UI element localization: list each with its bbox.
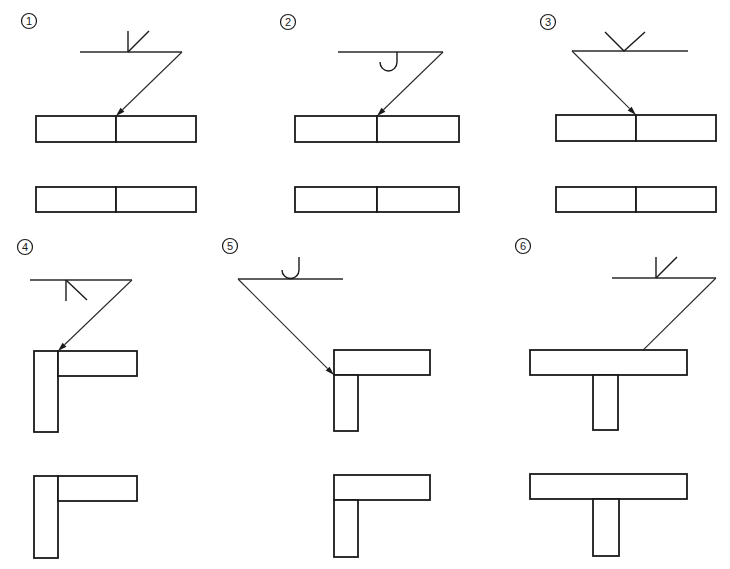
plate <box>58 476 137 501</box>
plate <box>36 116 116 142</box>
diagram-number-label: 2 <box>281 15 296 30</box>
diagram-number-label: 5 <box>223 239 238 254</box>
label-number: 2 <box>285 16 291 28</box>
symbol-stroke <box>605 32 645 51</box>
plate <box>116 116 196 142</box>
diagram-3: 3 <box>541 15 717 213</box>
joint-result <box>36 187 196 212</box>
plate <box>593 375 618 430</box>
plate <box>530 350 687 375</box>
joint-result <box>295 187 459 212</box>
plate <box>377 187 459 212</box>
diagram-1: 1 <box>22 14 197 213</box>
diagram-2: 2 <box>281 15 460 213</box>
diagram-4: 4 <box>18 240 138 559</box>
plate <box>116 187 196 212</box>
weld-symbol-bevel-arrow-side-below-icon <box>66 280 87 301</box>
label-number: 3 <box>545 16 551 28</box>
joint-with-symbol <box>36 116 196 142</box>
label-number: 4 <box>22 241 28 253</box>
joint-with-symbol <box>34 351 137 432</box>
diagram-5: 5 <box>223 239 431 558</box>
symbol-stroke <box>128 31 149 52</box>
arrow-leader-line <box>383 52 443 110</box>
plate <box>636 115 716 141</box>
plate <box>377 116 459 142</box>
plate <box>334 475 430 500</box>
plate <box>295 116 377 142</box>
arrow-leader-line <box>64 280 132 345</box>
diagram-number-label: 4 <box>18 240 33 255</box>
weld-symbol-figure: 123456 <box>0 0 730 569</box>
plate <box>636 187 716 212</box>
plate <box>530 474 687 499</box>
label-number: 1 <box>26 15 32 27</box>
symbol-stroke <box>282 257 299 279</box>
weld-symbol-j-groove-other-side-icon <box>282 257 299 279</box>
plate <box>36 187 116 212</box>
plate <box>34 476 58 558</box>
joint-with-symbol <box>334 350 430 431</box>
plate <box>334 500 358 557</box>
joint-result <box>530 474 687 556</box>
weld-symbol-v-groove-other-side-icon <box>605 32 645 51</box>
plate <box>34 351 58 432</box>
arrow-leader-line <box>238 279 328 369</box>
joint-result <box>556 187 716 212</box>
diagram-number-label: 1 <box>22 14 37 29</box>
diagram-number-label: 3 <box>541 15 556 30</box>
symbol-stroke <box>656 257 677 278</box>
joint-with-symbol <box>530 350 687 430</box>
diagrams-root: 123456 <box>18 14 717 559</box>
joint-result <box>34 476 137 558</box>
plate <box>334 350 430 375</box>
joint-result <box>334 475 430 557</box>
arrow-leader-line <box>122 52 182 110</box>
label-number: 5 <box>227 240 233 252</box>
weld-symbol-bevel-arrow-side-icon <box>128 31 149 52</box>
diagram-6: 6 <box>516 239 717 557</box>
arrow-leader-line <box>572 51 630 109</box>
label-number: 6 <box>520 240 526 252</box>
diagram-number-label: 6 <box>516 239 531 254</box>
plate <box>295 187 377 212</box>
weld-symbol-j-groove-arrow-side-icon <box>380 52 397 71</box>
symbol-stroke <box>66 280 87 300</box>
plate <box>556 187 636 212</box>
plate <box>58 351 137 376</box>
plate <box>556 115 636 141</box>
weld-symbol-bevel-other-side-icon <box>656 257 677 278</box>
plate <box>334 375 358 431</box>
symbol-stroke <box>380 52 397 71</box>
joint-with-symbol <box>295 116 459 142</box>
plate <box>593 499 619 556</box>
joint-with-symbol <box>556 115 716 141</box>
